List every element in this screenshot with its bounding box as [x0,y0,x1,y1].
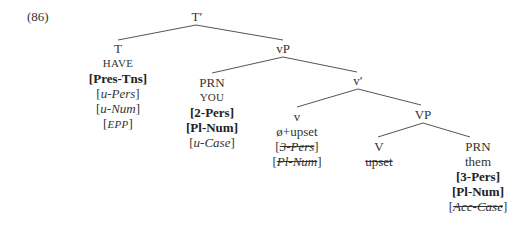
node-V-word: upset [365,154,392,169]
feature-pres-tns: [Pres-Tns] [89,71,147,86]
branch-VP-prn [423,123,470,137]
node-v-word: ø+upset [272,124,321,139]
feature-3-pers-checked: [3-Pers] [272,139,321,154]
feature-pl-num: [Pl-Num] [186,120,238,135]
node-prn-label: PRN [186,75,238,90]
branch-tbar-vp [196,25,283,40]
node-t-label: T [89,41,147,56]
node-prn2-label: PRN [449,139,508,154]
feature-u-num: [u-Num] [89,101,147,116]
node-v-label: v [272,109,321,124]
node-prn-them: PRN them [3-Pers] [Pl-Num] [Acc-Case] [449,139,508,214]
feature-acc-case-checked: [Acc-Case] [449,199,508,214]
feature-2-pers: [2-Pers] [186,105,238,120]
feature-pl-num-2: [Pl-Num] [449,184,508,199]
node-vp: vP [276,41,290,56]
branch-vp-prn [212,57,283,73]
branch-vp-vbar [283,57,357,72]
node-V-label: V [365,139,392,154]
node-tbar: T′ [192,9,203,24]
node-prn2-word: them [449,154,508,169]
feature-3-pers: [3-Pers] [449,169,508,184]
branch-vbar-v [297,89,358,107]
branch-vbar-VP [358,89,421,105]
node-prn-word: YOU [186,90,238,105]
example-number: (86) [27,9,49,25]
feature-epp: [EPP] [89,116,147,132]
node-vbar: v′ [353,73,362,88]
branch-VP-V [378,123,423,137]
node-VP: VP [415,107,432,122]
feature-u-case: [u-Case] [186,135,238,150]
node-prn-you: PRN YOU [2-Pers] [Pl-Num] [u-Case] [186,75,238,150]
branch-tbar-t [118,25,196,40]
feature-pl-num-checked: [Pl-Num] [272,154,321,169]
feature-u-pers: [u-Pers] [89,86,147,101]
node-t-word: HAVE [89,56,147,71]
node-v: v ø+upset [3-Pers] [Pl-Num] [272,109,321,169]
node-V: V upset [365,139,392,169]
node-t: T HAVE [Pres-Tns] [u-Pers] [u-Num] [EPP] [89,41,147,132]
